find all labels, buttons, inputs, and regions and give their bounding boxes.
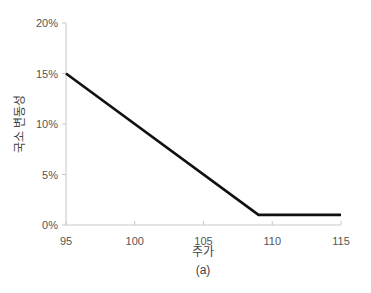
y-ticks: 0%5%10%15%20% <box>36 17 66 231</box>
x-tick-label: 110 <box>263 235 281 247</box>
x-tick-label: 115 <box>332 235 350 247</box>
y-tick-label: 5% <box>42 169 58 181</box>
series-layer <box>66 74 341 215</box>
x-axis-title: 주가 <box>192 245 214 259</box>
y-tick-label: 10% <box>36 118 58 130</box>
y-tick-label: 0% <box>42 219 58 231</box>
y-tick-label: 20% <box>36 17 58 29</box>
figure-caption: (a) <box>196 263 211 277</box>
x-tick-label: 100 <box>126 235 144 247</box>
x-tick-label: 95 <box>60 235 72 247</box>
x-axis: 95100105110115 <box>60 221 350 247</box>
y-axis: 0%5%10%15%20% <box>36 17 66 231</box>
series-line <box>66 74 341 215</box>
chart: 0%5%10%15%20% 95100105110115 주가 (a) 국소 변… <box>0 0 371 293</box>
y-axis-title: 국소 변동성 <box>13 95 27 154</box>
y-tick-label: 15% <box>36 68 58 80</box>
